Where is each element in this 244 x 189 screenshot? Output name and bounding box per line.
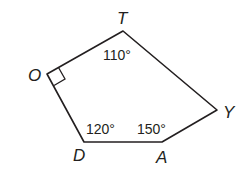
pentagon-diagram: T O Y D A 110° 120° 150° [0, 0, 244, 189]
right-angle-marker-o [54, 68, 65, 86]
angle-label-d: 120° [86, 121, 115, 137]
angle-label-t: 110° [103, 47, 131, 63]
pentagon-toyad [47, 31, 217, 142]
vertex-label-a: A [155, 148, 167, 167]
vertex-label-d: D [73, 146, 85, 165]
vertex-label-t: T [117, 9, 129, 28]
angle-label-a: 150° [137, 121, 166, 137]
vertex-label-y: Y [223, 103, 236, 122]
vertex-label-o: O [28, 66, 41, 85]
